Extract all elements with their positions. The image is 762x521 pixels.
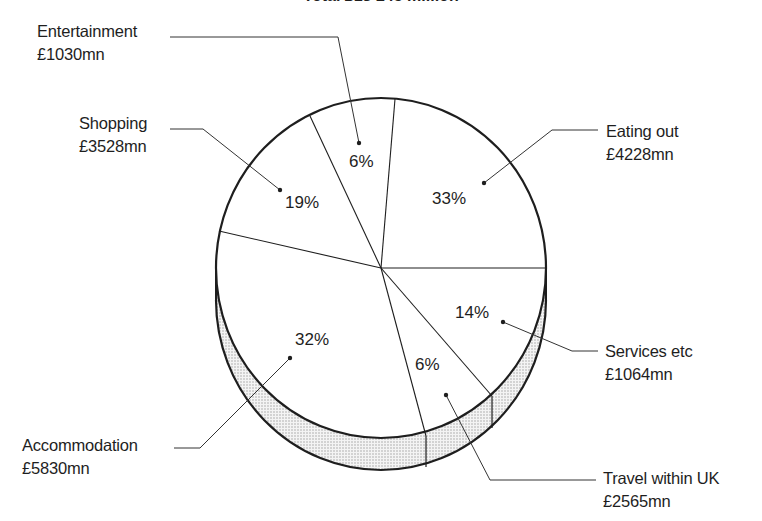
label-accommodation: Accommodation £5830mn [22,434,138,480]
pct-accommodation: 32% [295,330,329,349]
label-eating-out: Eating out £4228mn [606,120,678,166]
label-entertainment: Entertainment £1030mn [37,20,137,66]
label-value: £2565mn [603,490,719,513]
pct-eating-out: 33% [432,189,466,208]
label-value: £1030mn [37,43,137,66]
label-value: £1064mn [605,363,692,386]
label-name: Shopping [79,112,147,135]
pct-entertainment: 6% [349,152,374,171]
label-name: Entertainment [37,20,137,43]
label-shopping: Shopping £3528mn [79,112,147,158]
label-value: £4228mn [606,143,678,166]
label-name: Accommodation [22,434,138,457]
label-name: Services etc [605,340,692,363]
label-travel: Travel within UK £2565mn [603,467,719,513]
label-name: Travel within UK [603,467,719,490]
pct-services: 14% [455,303,489,322]
label-value: £3528mn [79,135,147,158]
label-services: Services etc £1064mn [605,340,692,386]
pct-shopping: 19% [285,193,319,212]
pct-travel: 6% [415,355,440,374]
label-name: Eating out [606,120,678,143]
label-value: £5830mn [22,457,138,480]
